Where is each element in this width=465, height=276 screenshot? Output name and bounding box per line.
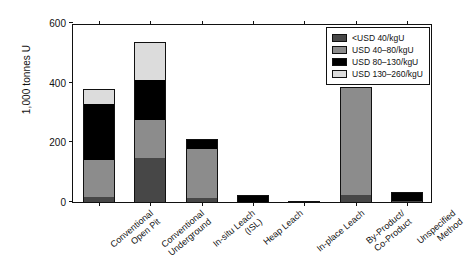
x-tick: [253, 202, 254, 206]
bar-segment: [83, 104, 115, 160]
bar-stack: [237, 195, 269, 202]
x-tick: [99, 202, 100, 206]
x-tick-top: [253, 21, 254, 25]
bar-stack: [134, 42, 166, 202]
bar-stack: [83, 89, 115, 202]
legend-swatch-icon: [332, 70, 347, 78]
bar-segment: [83, 89, 115, 105]
x-tick-label: Conventional Open Pit: [108, 208, 162, 258]
chart-legend: <USD 40/kgUUSD 40–80/kgUUSD 80–130/kgUUS…: [326, 27, 430, 85]
x-tick: [150, 202, 151, 206]
bar-stack: [340, 87, 372, 202]
y-tick-label: 200: [49, 137, 66, 148]
bar-stack: [391, 192, 423, 202]
bar-segment: [134, 42, 166, 80]
x-tick: [407, 202, 408, 206]
legend-item: USD 130–260/kgU: [332, 68, 423, 80]
x-tick: [202, 202, 203, 206]
legend-swatch-icon: [332, 34, 347, 42]
bar-segment: [340, 87, 372, 196]
bar-segment: [237, 195, 269, 202]
legend-item: USD 40–80/kgU: [332, 44, 423, 56]
y-tick-label: 0: [60, 197, 66, 208]
x-tick-top: [304, 21, 305, 25]
legend-swatch-icon: [332, 46, 347, 54]
x-tick-top: [99, 21, 100, 25]
x-tick-top: [202, 21, 203, 25]
legend-swatch-icon: [332, 58, 347, 66]
bar-stack: [186, 139, 218, 202]
x-tick-label: In-place Leach: [315, 208, 367, 254]
y-tick-label: 400: [49, 77, 66, 88]
bar-segment: [186, 149, 218, 198]
x-tick-label: Heap Leach: [261, 208, 305, 247]
legend-label: <USD 40/kgU: [352, 33, 404, 43]
x-tick-top: [150, 21, 151, 25]
legend-label: USD 80–130/kgU: [352, 57, 418, 67]
bar-segment: [134, 120, 166, 158]
x-tick: [304, 202, 305, 206]
x-tick: [356, 202, 357, 206]
y-tick: [69, 22, 73, 23]
x-tick-label: Unspecified Method: [415, 208, 465, 254]
x-tick-label: In-situ Leach (ISL): [211, 208, 264, 257]
x-tick-label: By-Product/ Co-Product: [364, 208, 414, 254]
legend-label: USD 40–80/kgU: [352, 45, 413, 55]
bar-segment: [134, 158, 166, 202]
x-tick-top: [407, 21, 408, 25]
x-tick-top: [356, 21, 357, 25]
legend-label: USD 130–260/kgU: [352, 69, 423, 79]
y-tick: [69, 82, 73, 83]
y-axis-label: 1,000 tonnes U: [21, 10, 32, 150]
bar-segment: [83, 160, 115, 196]
legend-item: <USD 40/kgU: [332, 32, 423, 44]
y-tick: [69, 201, 73, 202]
bar-segment: [391, 192, 423, 201]
bar-segment: [134, 80, 166, 120]
y-tick: [69, 141, 73, 142]
y-tick-label: 600: [49, 18, 66, 29]
bar-segment: [186, 139, 218, 149]
x-tick-label: Conventional Underground: [159, 208, 213, 258]
legend-item: USD 80–130/kgU: [332, 56, 423, 68]
